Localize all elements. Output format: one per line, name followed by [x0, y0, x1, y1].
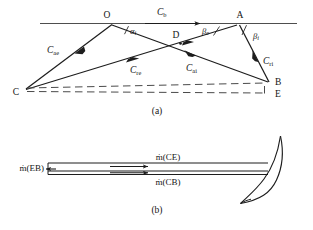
figure-svg: O A B C D E Cb Cae Cre Cai Cri	[0, 0, 313, 230]
vector-label-absolute-exit: Cae	[47, 45, 59, 56]
blade-profile-outer	[241, 136, 283, 204]
angle-label-beta-e: βe	[201, 26, 209, 37]
vector-relative-inlet-arrowhead	[252, 51, 258, 62]
vector-label-relative-inlet: Cri	[263, 56, 273, 67]
vector-label-blade-speed: Cb	[157, 7, 167, 18]
panel-b-caption: (b)	[151, 205, 162, 216]
vector-absolute-exit-arrowhead	[75, 47, 86, 55]
vector-label-absolute-inlet: Cai	[186, 63, 197, 74]
dashed-line-CE	[27, 92, 264, 94]
point-label-O: O	[104, 10, 111, 20]
point-label-E: E	[275, 89, 281, 99]
flow-label-ce: ṁ(CE)	[156, 152, 181, 162]
flow-label-cb: ṁ(CB)	[155, 177, 180, 187]
angle-label-alpha-i: αi	[130, 26, 136, 37]
flow-label-eb: ṁ(EB)	[20, 163, 45, 173]
blade-profile-inner	[241, 136, 281, 204]
point-label-D: D	[173, 30, 180, 40]
vector-D-arrowhead-right	[184, 50, 196, 57]
point-D-dot	[179, 42, 182, 45]
vector-absolute-exit-line	[26, 25, 112, 90]
point-label-B: B	[275, 77, 281, 87]
point-label-C: C	[13, 87, 19, 97]
panel-a-caption: (a)	[152, 106, 163, 117]
figure-root: O A B C D E Cb Cae Cre Cai Cri	[0, 0, 313, 230]
point-label-A: A	[237, 10, 244, 20]
panel-a: O A B C D E Cb Cae Cre Cai Cri	[13, 7, 297, 117]
vector-label-relative-exit: Cre	[130, 65, 141, 76]
dashed-line-CB	[27, 83, 266, 88]
angle-label-beta-i: βi	[252, 31, 259, 42]
panel-b: ṁ(EB) ṁ(CE) ṁ(CB) (b)	[20, 136, 283, 216]
